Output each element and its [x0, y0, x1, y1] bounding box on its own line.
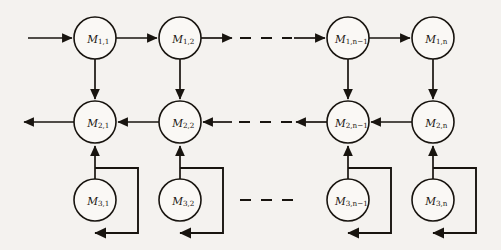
node-m-2-1[interactable]: M2,1 — [51, 101, 140, 143]
nodes-layer: M1,1 M1,2 M1,n−1 M1,n — [51, 17, 478, 221]
node-m-2-n-1[interactable]: M2,n−1 — [298, 101, 398, 143]
node-m-1-n[interactable]: M1,n — [388, 17, 477, 59]
node-m-3-2[interactable]: M3,2 — [136, 179, 225, 221]
diagram-canvas: M1,1 M1,2 M1,n−1 M1,n — [0, 0, 501, 250]
node-m-3-n-1[interactable]: M3,n−1 — [298, 179, 398, 221]
node-m-3-n[interactable]: M3,n — [388, 179, 477, 221]
node-m-1-2[interactable]: M1,2 — [136, 17, 225, 59]
node-m-1-n-1[interactable]: M1,n−1 — [298, 17, 398, 59]
node-m-2-n[interactable]: M2,n — [388, 101, 477, 143]
node-m-3-1[interactable]: M3,1 — [51, 179, 140, 221]
node-m-2-2[interactable]: M2,2 — [136, 101, 225, 143]
node-m-1-1[interactable]: M1,1 — [51, 17, 140, 59]
machine-network-diagram: M1,1 M1,2 M1,n−1 M1,n — [0, 0, 501, 250]
